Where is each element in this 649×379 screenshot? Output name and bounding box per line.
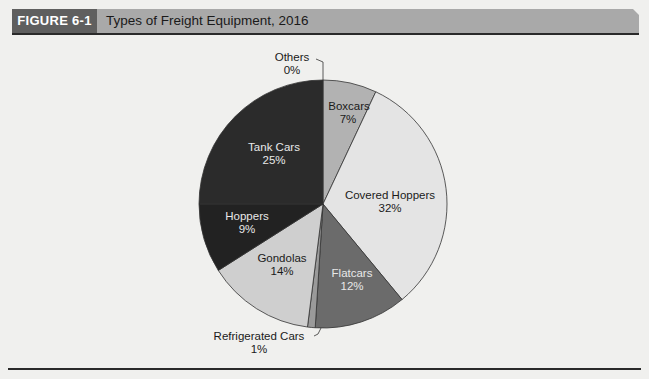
label-hoppers-name: Hoppers — [225, 210, 269, 222]
label-coveredhoppers-pct: 32% — [378, 202, 401, 214]
bottom-rule — [8, 368, 641, 370]
others-leader-line — [316, 59, 323, 80]
label-gondolas-name: Gondolas — [257, 252, 306, 264]
label-tankcars-name: Tank Cars — [248, 141, 300, 153]
label-boxcars-name: Boxcars — [328, 100, 370, 112]
label-boxcars-pct: 7% — [340, 113, 357, 125]
label-hoppers-pct: 9% — [239, 223, 256, 235]
label-refrigerated-pct: 1% — [251, 343, 268, 355]
refrigerated-leader-line — [314, 328, 321, 336]
label-others-pct: 0% — [284, 64, 301, 76]
label-tankcars-pct: 25% — [262, 154, 285, 166]
label-coveredhoppers-name: Covered Hoppers — [345, 189, 435, 201]
pie-chart: Others 0% Boxcars 7% Tank Cars 25% Cover… — [0, 0, 649, 379]
label-others-name: Others — [275, 51, 310, 63]
label-flatcars-pct: 12% — [340, 280, 363, 292]
label-gondolas-pct: 14% — [270, 265, 293, 277]
pie-slices — [199, 80, 447, 328]
label-flatcars-name: Flatcars — [332, 267, 373, 279]
label-refrigerated-name: Refrigerated Cars — [214, 330, 305, 342]
